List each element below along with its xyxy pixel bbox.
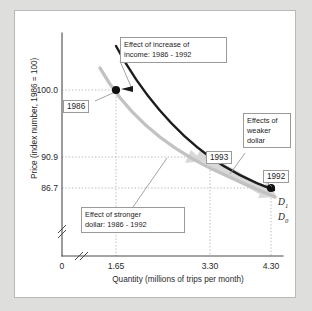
point-1992 <box>267 184 275 192</box>
income-effect-arrow <box>121 86 133 92</box>
year-label-1992: 1992 <box>263 170 289 183</box>
y-tick-867: 86.7 <box>41 183 58 193</box>
y-tick-909: 90.9 <box>41 152 58 162</box>
y-tick-100: 100.0 <box>36 85 58 95</box>
callout-income-effect: Effect of increase of income: 1986 - 199… <box>120 37 227 63</box>
x-tick-165: 1.65 <box>108 261 125 271</box>
x-tick-430: 4.30 <box>263 261 280 271</box>
y-axis-label: Price (index number, 1986 = 100) <box>30 57 39 179</box>
curve-label-d0-sub: 0 <box>285 217 289 224</box>
x-axis-label: Quantity (millions of trips per month) <box>112 275 244 284</box>
curve-label-d1: D1 <box>277 197 288 209</box>
year-label-1986: 1986 <box>63 100 89 113</box>
callout-weaker-dollar: Effects of weaker dollar <box>243 113 291 148</box>
callout-stronger-dollar: Effect of stronger dollar: 1986 - 1992 <box>81 207 185 233</box>
point-1986 <box>112 86 120 94</box>
x-tick-330: 3.30 <box>202 261 219 271</box>
curve-label-d0: D0 <box>277 212 289 224</box>
chart-figure: Price (index number, 1986 = 100) <box>14 10 296 298</box>
curve-label-d0-letter: D <box>277 212 285 222</box>
year-label-1993: 1993 <box>206 151 232 164</box>
curve-label-d1-letter: D <box>277 197 285 207</box>
x-tick-0: 0 <box>60 261 65 271</box>
curve-label-d1-sub: 1 <box>285 202 288 209</box>
